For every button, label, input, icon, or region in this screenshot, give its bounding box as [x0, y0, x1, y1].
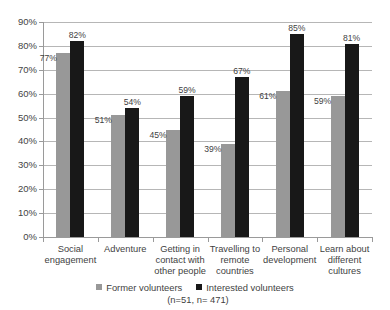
bar-former [331, 96, 345, 237]
chart-legend: Former volunteersInterested volunteers (… [0, 281, 390, 305]
bar-interested [125, 108, 139, 237]
bar-value-label: 54% [121, 98, 143, 107]
bar-value-label: 67% [231, 67, 253, 76]
legend-swatch-interested [196, 284, 202, 290]
bar-former [276, 91, 290, 237]
bar-value-label: 85% [286, 24, 308, 33]
legend-sample-size-note: (n=51, n= 471) [0, 294, 390, 305]
bar-value-label: 39% [202, 145, 224, 154]
category-label-line: Personal [259, 244, 320, 255]
legend-label: Interested volunteers [206, 282, 294, 293]
y-axis-tick-label: 50% [0, 113, 37, 123]
x-axis-category-label: Getting incontact withother people [150, 244, 211, 278]
category-label-line: Adventure [95, 244, 156, 255]
category-label-line: countries [205, 266, 266, 277]
y-axis-tick-label: 20% [0, 184, 37, 194]
category-label-line: development [259, 255, 320, 266]
bar-value-label: 82% [66, 31, 88, 40]
bar-value-label: 51% [92, 116, 114, 125]
x-axis-separator-tick [372, 237, 373, 242]
y-axis-tick-label: 0% [0, 232, 37, 242]
y-axis-tick-label: 60% [0, 89, 37, 99]
bar-value-label: 81% [341, 34, 363, 43]
bar-value-label: 45% [147, 131, 169, 140]
category-label-line: other people [150, 266, 211, 277]
legend-label: Former volunteers [106, 282, 182, 293]
x-axis-separator-tick [262, 237, 263, 242]
category-label-line: cultures [314, 266, 375, 277]
x-axis-category-label: Adventure [95, 244, 156, 255]
x-axis-category-label: Socialengagement [40, 244, 101, 266]
x-axis-category-label: Travelling toremotecountries [205, 244, 266, 278]
x-axis-category-label: Learn aboutdifferentcultures [314, 244, 375, 278]
x-axis-separator-tick [98, 237, 99, 242]
bar-value-label: 59% [176, 86, 198, 95]
legend-entries: Former volunteersInterested volunteers [0, 281, 390, 293]
bar-former [111, 115, 125, 237]
bar-value-label: 61% [257, 92, 279, 101]
category-label-line: Getting in [150, 244, 211, 255]
legend-entry: Former volunteers [96, 281, 182, 293]
grouped-bar-chart: 0%10%20%30%40%50%60%70%80%90% 77%51%45%3… [0, 0, 390, 310]
category-label-line: remote [205, 255, 266, 266]
legend-swatch-former [96, 284, 102, 290]
plot-area [43, 22, 372, 237]
x-axis-separator-tick [317, 237, 318, 242]
category-label-line: Social [40, 244, 101, 255]
category-label-line: Learn about [314, 244, 375, 255]
bar-interested [180, 96, 194, 237]
bar-former [56, 53, 70, 237]
x-axis-category-label: Personaldevelopment [259, 244, 320, 266]
bar-interested [290, 34, 304, 237]
x-axis-separator-tick [208, 237, 209, 242]
bar-interested [235, 77, 249, 237]
category-label-line: different [314, 255, 375, 266]
y-axis-tick-label: 30% [0, 160, 37, 170]
y-axis-tick-label: 80% [0, 41, 37, 51]
y-axis-tick-label: 40% [0, 136, 37, 146]
y-axis-tick-label: 10% [0, 208, 37, 218]
category-label-line: contact with [150, 255, 211, 266]
y-axis-tick-label: 90% [0, 17, 37, 27]
bar-former [166, 130, 180, 238]
bar-interested [345, 44, 359, 238]
legend-entry: Interested volunteers [196, 281, 294, 293]
category-label-line: engagement [40, 255, 101, 266]
category-label-line: Travelling to [205, 244, 266, 255]
bar-former [221, 144, 235, 237]
y-axis-tick-label: 70% [0, 65, 37, 75]
x-axis-separator-tick [43, 237, 44, 242]
bar-value-label: 59% [312, 97, 334, 106]
x-axis-separator-tick [153, 237, 154, 242]
bar-interested [70, 41, 84, 237]
bar-value-label: 77% [37, 54, 59, 63]
